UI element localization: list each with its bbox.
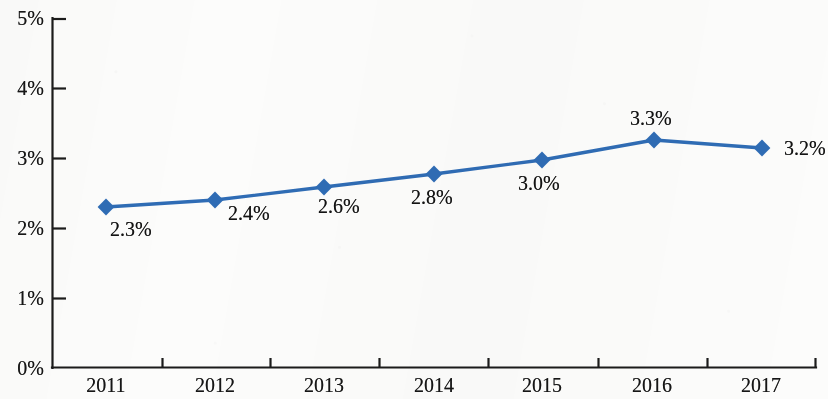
data-label-2011: 2.3% <box>110 219 152 239</box>
data-point-marker <box>426 166 443 183</box>
data-label-2017: 3.2% <box>784 138 826 158</box>
data-label-2014: 2.8% <box>411 187 453 207</box>
data-point-marker <box>316 179 333 196</box>
x-tick-label-2016: 2016 <box>592 375 712 395</box>
y-tick-label-2: 2% <box>0 218 44 238</box>
data-point-marker <box>646 132 663 149</box>
y-tick-label-3: 3% <box>0 148 44 168</box>
data-point-marker <box>754 140 771 157</box>
x-tick-label-2012: 2012 <box>155 375 275 395</box>
y-tick-label-1: 1% <box>0 288 44 308</box>
data-point-marker <box>98 199 115 216</box>
x-tick-label-2017: 2017 <box>701 375 821 395</box>
data-label-2015: 3.0% <box>518 173 560 193</box>
y-tick-label-0: 0% <box>0 358 44 378</box>
data-label-2013: 2.6% <box>318 196 360 216</box>
y-tick-label-5: 5% <box>0 8 44 28</box>
x-tick-label-2011: 2011 <box>46 375 166 395</box>
data-label-2016: 3.3% <box>630 108 672 128</box>
x-tick-label-2015: 2015 <box>482 375 602 395</box>
x-tick-label-2013: 2013 <box>264 375 384 395</box>
data-point-marker <box>534 152 551 169</box>
data-label-2012: 2.4% <box>228 203 270 223</box>
y-tick-label-4: 4% <box>0 78 44 98</box>
y-axis-ticks <box>52 19 66 299</box>
x-tick-label-2014: 2014 <box>374 375 494 395</box>
chart-figure: 5% 4% 3% 2% 1% 0% 2011 2012 2013 2014 20… <box>0 0 828 399</box>
data-point-marker <box>207 192 224 209</box>
